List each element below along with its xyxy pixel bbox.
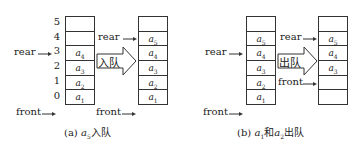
index-1: 1 xyxy=(53,75,61,86)
queue-cell: a4 xyxy=(139,46,167,61)
queue-cell xyxy=(66,17,94,32)
queue-cell xyxy=(247,17,275,32)
queue-cell: a2 xyxy=(66,76,94,91)
index-3: 3 xyxy=(53,45,61,56)
queue-cell xyxy=(319,76,347,91)
queue-cell: a4 xyxy=(66,46,94,61)
queue-cell: a3 xyxy=(139,61,167,76)
arrow-right-icon xyxy=(229,112,243,116)
arrow-right-icon xyxy=(303,82,317,86)
queue-before: a4 a3 a2 a1 xyxy=(65,16,95,105)
queue-after: a5 a4 a3 a2 a1 xyxy=(138,16,168,105)
front-label: front xyxy=(96,106,121,117)
arrow-right-icon xyxy=(303,37,317,41)
queue-cell xyxy=(319,17,347,32)
queue-cell: a3 xyxy=(66,61,94,76)
queue-cell: a3 xyxy=(247,61,275,76)
index-2: 2 xyxy=(53,60,61,71)
arrow-right-icon xyxy=(42,112,56,116)
queue-cell: a1 xyxy=(139,90,167,105)
index-5: 5 xyxy=(53,16,61,27)
index-4: 4 xyxy=(53,31,61,42)
index-0: 0 xyxy=(53,90,61,101)
queue-cell: a5 xyxy=(139,32,167,47)
queue-cell xyxy=(66,32,94,47)
arrow-right-icon xyxy=(122,112,136,116)
front-label: front xyxy=(203,106,228,117)
front-label: front xyxy=(16,106,41,117)
queue-cell: a4 xyxy=(247,46,275,61)
queue-before: a5 a4 a3 a2 a1 xyxy=(246,16,276,105)
queue-after: a5 a4 a3 xyxy=(318,16,348,105)
enqueue-label: 入队 xyxy=(98,54,120,70)
queue-cell: a4 xyxy=(319,46,347,61)
queue-cell: a2 xyxy=(139,76,167,91)
arrow-right-icon xyxy=(123,37,137,41)
rear-label: rear xyxy=(98,31,119,42)
queue-cell: a1 xyxy=(66,90,94,105)
rear-label: rear xyxy=(280,31,301,42)
dequeue-label: 出队 xyxy=(279,54,301,70)
arrow-right-icon xyxy=(229,52,243,56)
queue-cell xyxy=(319,90,347,105)
front-label: front xyxy=(278,76,303,87)
queue-cell: a5 xyxy=(247,32,275,47)
caption-a: (a) a5入队 xyxy=(64,124,111,140)
rear-label: rear xyxy=(205,46,226,57)
rear-label: rear xyxy=(14,46,35,57)
queue-cell: a1 xyxy=(247,90,275,105)
caption-b: (b) a1和a2出队 xyxy=(237,124,304,140)
queue-cell xyxy=(139,17,167,32)
queue-cell: a3 xyxy=(319,61,347,76)
queue-cell: a2 xyxy=(247,76,275,91)
arrow-right-icon xyxy=(38,52,52,56)
queue-cell: a5 xyxy=(319,32,347,47)
